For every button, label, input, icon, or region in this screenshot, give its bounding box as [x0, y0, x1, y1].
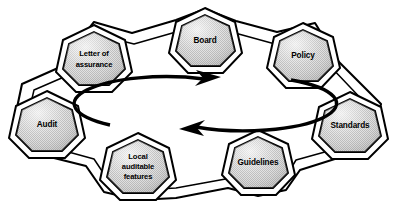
node-local-auditable-features-label-line3: features	[124, 172, 153, 181]
node-standards-label: Standards	[330, 121, 370, 130]
node-letter-of-assurance-label-line2: assurance	[76, 60, 113, 69]
governance-cycle-diagram: Board Policy Standards Guidelines	[0, 0, 403, 209]
diagram-canvas: Board Policy Standards Guidelines	[0, 0, 403, 209]
node-letter-of-assurance-label-line1: Letter of	[79, 49, 109, 58]
node-local-auditable-features-label-line2: auditable	[122, 162, 154, 171]
node-policy-label: Policy	[291, 51, 315, 60]
node-local-auditable-features-label-line1: Local	[128, 152, 147, 161]
node-board-label: Board	[193, 36, 216, 45]
node-guidelines-label: Guidelines	[238, 158, 279, 167]
node-audit-label: Audit	[37, 120, 58, 129]
